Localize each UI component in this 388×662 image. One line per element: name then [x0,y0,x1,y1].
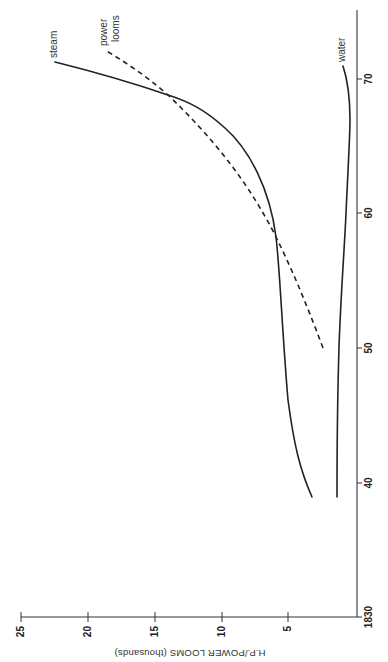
series-power-looms-label-1: power [98,18,109,46]
value-ticks: 5 10 15 20 25 [15,612,293,637]
year-tick-50: 50 [363,342,374,354]
value-tick-25: 25 [15,626,26,638]
series-power-looms-label-2: looms [110,15,121,42]
year-tick-1830: 1830 [363,605,374,628]
year-tick-60: 60 [363,207,374,219]
series-steam-label: steam [48,31,59,58]
value-tick-20: 20 [82,626,93,638]
series-power-looms-line [105,50,323,348]
series-water-line [337,66,350,497]
value-axis-title: H.P./POWER LOOMS (thousands) [114,648,265,659]
chart-figure: 1830 40 50 60 70 5 10 15 20 25 H.P./POWE… [0,0,388,662]
year-tick-70: 70 [363,73,374,85]
series-steam-line [55,62,312,497]
year-ticks: 1830 40 50 60 70 [357,73,374,628]
value-tick-10: 10 [216,626,227,638]
year-tick-40: 40 [363,477,374,489]
value-tick-5: 5 [282,626,293,632]
series-water-label: water [336,37,347,63]
value-tick-15: 15 [149,626,160,638]
